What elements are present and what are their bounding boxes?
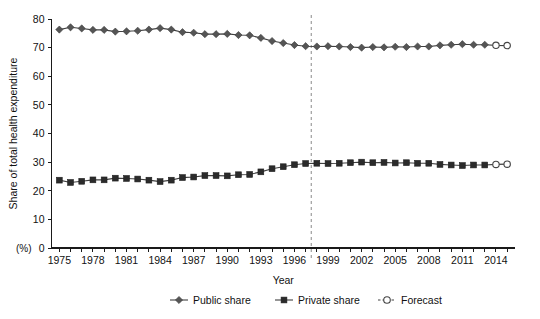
series-public-share [56, 24, 511, 52]
x-tick-label-1996: 1996 [283, 254, 307, 266]
x-tick-label-1981: 1981 [115, 254, 139, 266]
y-tick-label-50: 50 [33, 99, 45, 111]
data-point-1998 [314, 160, 320, 166]
data-point-1979 [101, 26, 108, 33]
data-point-2012 [471, 162, 477, 168]
data-point-1994 [268, 37, 275, 44]
data-point-1979 [101, 177, 107, 183]
data-point-1975 [56, 177, 62, 183]
forecast-marker-2014 [493, 42, 499, 48]
data-point-2000 [336, 160, 342, 166]
y-tick-label-30: 30 [33, 156, 45, 168]
legend-item-public-share[interactable]: Public share [170, 294, 251, 306]
legend-label: Forecast [401, 294, 442, 306]
data-point-1994 [269, 166, 275, 172]
data-point-2003 [370, 160, 376, 166]
data-point-1976 [67, 24, 74, 31]
data-point-1977 [78, 25, 85, 32]
forecast-marker-2014 [493, 161, 499, 167]
data-point-2009 [436, 42, 443, 49]
data-point-1996 [292, 162, 298, 168]
data-point-2002 [359, 159, 365, 165]
x-tick-label-1987: 1987 [182, 254, 206, 266]
y-tick-label-10: 10 [33, 213, 45, 225]
data-point-1976 [68, 180, 74, 186]
chart-legend: Public sharePrivate shareForecast [170, 294, 442, 306]
data-point-1982 [135, 176, 141, 182]
data-point-1995 [280, 39, 287, 46]
axis-lines [52, 19, 516, 248]
data-point-2000 [336, 43, 343, 50]
data-point-1980 [112, 175, 118, 181]
x-tick-label-2002: 2002 [350, 254, 374, 266]
data-point-2011 [459, 163, 465, 169]
x-axis-title: Year [273, 274, 295, 286]
data-point-2001 [348, 160, 354, 166]
data-point-1985 [168, 26, 175, 33]
y-tick-label-80: 80 [33, 13, 45, 25]
data-point-1996 [291, 41, 298, 48]
data-point-1988 [202, 173, 208, 179]
legend-label: Public share [193, 294, 251, 306]
x-tick-label-2008: 2008 [417, 254, 441, 266]
data-point-2010 [448, 162, 454, 168]
data-point-1989 [213, 173, 219, 179]
data-point-1975 [56, 26, 63, 33]
data-point-1991 [236, 172, 242, 178]
x-tick-label-1999: 1999 [316, 254, 340, 266]
data-point-1997 [303, 161, 309, 167]
data-point-2013 [481, 41, 488, 48]
data-point-2008 [425, 43, 432, 50]
y-axis-unit-label: (%) [16, 243, 32, 254]
x-tick-label-2011: 2011 [451, 254, 474, 266]
axes-group [52, 19, 516, 248]
y-axis-title: Share of total health expenditure [7, 57, 19, 209]
data-point-2005 [392, 43, 399, 50]
data-point-2007 [415, 160, 421, 166]
data-point-1993 [257, 34, 264, 41]
tick-marks-group [48, 19, 508, 252]
data-point-1987 [190, 29, 197, 36]
data-point-1992 [246, 32, 253, 39]
data-point-1990 [224, 30, 231, 37]
series-private-share [56, 159, 510, 185]
legend-item-forecast[interactable]: Forecast [378, 294, 442, 306]
data-point-1984 [156, 25, 163, 32]
data-series-group [56, 24, 511, 186]
data-point-1986 [180, 175, 186, 181]
data-point-1995 [280, 164, 286, 170]
legend-label: Private share [298, 294, 360, 306]
x-tick-label-2014: 2014 [484, 254, 508, 266]
data-point-1998 [313, 43, 320, 50]
x-tick-label-1993: 1993 [249, 254, 273, 266]
data-point-1990 [224, 173, 230, 179]
data-point-2013 [482, 162, 488, 168]
data-point-1978 [89, 26, 96, 33]
x-tick-label-1984: 1984 [148, 254, 172, 266]
data-point-2001 [347, 43, 354, 50]
data-point-1981 [124, 176, 130, 182]
data-point-1992 [247, 172, 253, 178]
data-point-2008 [426, 160, 432, 166]
data-point-1988 [201, 31, 208, 38]
forecast-marker-2015 [504, 161, 510, 167]
data-point-1999 [325, 161, 331, 167]
data-point-2002 [358, 44, 365, 51]
x-tick-label-1975: 1975 [48, 254, 72, 266]
legend-item-private-share[interactable]: Private share [275, 294, 360, 306]
data-point-2009 [437, 162, 443, 168]
data-point-2006 [404, 160, 410, 166]
data-point-1978 [90, 177, 96, 183]
data-point-2007 [414, 43, 421, 50]
data-point-1989 [212, 31, 219, 38]
y-axis-tick-labels: 01020304050607080(%) [16, 13, 45, 254]
data-point-1999 [324, 43, 331, 50]
data-point-1977 [79, 178, 85, 184]
data-point-1983 [146, 177, 152, 183]
y-tick-label-0: 0 [39, 242, 45, 254]
data-point-2005 [392, 160, 398, 166]
data-point-1982 [134, 27, 141, 34]
data-point-2006 [403, 43, 410, 50]
y-tick-label-70: 70 [33, 41, 45, 53]
chart-figure: 01020304050607080(%) 1975197819811984198… [0, 0, 540, 319]
